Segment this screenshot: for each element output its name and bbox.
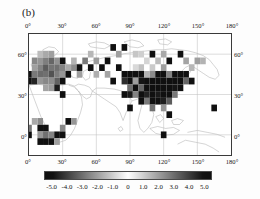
data-cell [49, 84, 55, 91]
x-tick-2: 60° [91, 157, 100, 167]
data-cell [133, 91, 139, 98]
data-cell [161, 78, 167, 85]
data-cell [138, 78, 144, 85]
data-cell [60, 131, 66, 138]
data-cell [60, 71, 66, 78]
data-cell [161, 98, 167, 105]
data-cell [60, 91, 66, 98]
x-tick-4: 120° [158, 21, 171, 31]
data-cell [166, 58, 172, 65]
data-cell [133, 71, 139, 78]
data-cell [49, 71, 55, 78]
colorbar-tick-3: -2.0 [92, 182, 103, 192]
colorbar-tick-2: -3.0 [77, 182, 88, 192]
y-axis-right: 60°30°0° [233, 33, 255, 153]
map-canvas [29, 34, 231, 155]
data-cell [155, 78, 161, 85]
data-cell [43, 78, 49, 85]
data-cell [32, 78, 38, 85]
data-cell [29, 71, 32, 78]
data-cell [88, 51, 94, 58]
data-cell [29, 131, 32, 138]
data-cell [105, 58, 111, 65]
data-cell [116, 64, 122, 71]
data-cell [71, 118, 77, 125]
data-cell [150, 91, 156, 98]
data-cell [144, 84, 150, 91]
data-cell [178, 78, 184, 85]
data-cell [150, 105, 156, 112]
data-cell [172, 91, 178, 98]
map-plot-area [28, 33, 232, 156]
data-cell [166, 98, 172, 105]
y-tick-0: 60° [18, 49, 27, 58]
data-cell [37, 125, 43, 132]
data-cell [43, 71, 49, 78]
x-tick-1: 30° [57, 157, 66, 167]
data-cell [49, 58, 55, 65]
colorbar-tick-9: 4.0 [185, 182, 194, 192]
data-cell [29, 125, 32, 132]
data-cell [178, 71, 184, 78]
data-cell [49, 138, 55, 145]
data-cell [150, 51, 156, 58]
y-tick-2: 0° [234, 131, 240, 140]
data-cell [183, 78, 189, 85]
data-cell [43, 58, 49, 65]
data-cell [161, 84, 167, 91]
x-tick-1: 30° [57, 21, 66, 31]
colorbar-gradient [44, 171, 212, 180]
data-cell [161, 51, 167, 58]
data-cell [178, 51, 184, 58]
data-cell [54, 78, 60, 85]
figure-panel-b: (b) 0°30°60°90°120°150°180° 60°30°0° [0, 0, 260, 199]
data-cell [161, 64, 167, 71]
data-cell [32, 118, 38, 125]
colorbar-tick-1: -4.0 [62, 182, 73, 192]
data-cell [211, 105, 217, 112]
x-tick-0: 0° [25, 157, 31, 167]
data-cell [49, 51, 55, 58]
data-cell [65, 64, 71, 71]
data-cell [43, 51, 49, 58]
data-cell [60, 78, 66, 85]
data-cell [37, 78, 43, 85]
data-cell [189, 64, 195, 71]
data-cell [127, 78, 133, 85]
data-cell [172, 84, 178, 91]
x-axis-bottom: 0°30°60°90°120°150°180° [28, 157, 232, 168]
data-cell [138, 71, 144, 78]
x-axis-top: 0°30°60°90°120°150°180° [28, 21, 232, 32]
data-cell [43, 64, 49, 71]
data-cell [138, 98, 144, 105]
data-cell [49, 64, 55, 71]
data-cell [37, 51, 43, 58]
data-cell [122, 44, 128, 51]
data-cell [37, 71, 43, 78]
data-cell [127, 105, 133, 112]
data-cell [183, 58, 189, 65]
data-cell [155, 91, 161, 98]
data-cell [32, 64, 38, 71]
data-cell [161, 71, 167, 78]
colorbar-tick-0: -5.0 [46, 182, 57, 192]
colorbar [44, 171, 212, 180]
data-cell [138, 64, 144, 71]
data-cell [49, 78, 55, 85]
data-cell [43, 84, 49, 91]
colorbar-tick-8: 3.0 [170, 182, 179, 192]
data-cell [43, 125, 49, 132]
x-tick-5: 150° [192, 157, 205, 167]
data-cell [65, 71, 71, 78]
data-cell [94, 71, 100, 78]
x-tick-6: 180° [226, 157, 239, 167]
y-tick-1: 30° [18, 90, 27, 99]
data-cell [166, 71, 172, 78]
data-cell [144, 78, 150, 85]
data-cell [166, 91, 172, 98]
panel-label: (b) [22, 6, 35, 18]
data-cell [127, 84, 133, 91]
data-cell [37, 131, 43, 138]
data-cell [155, 98, 161, 105]
data-cell [54, 131, 60, 138]
